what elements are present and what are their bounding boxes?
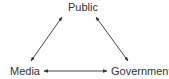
node-media: Media xyxy=(10,65,40,77)
edge-media-public xyxy=(31,17,62,61)
node-public: Public xyxy=(68,1,98,13)
node-government: Government xyxy=(111,65,169,77)
edge-public-government xyxy=(96,17,128,61)
